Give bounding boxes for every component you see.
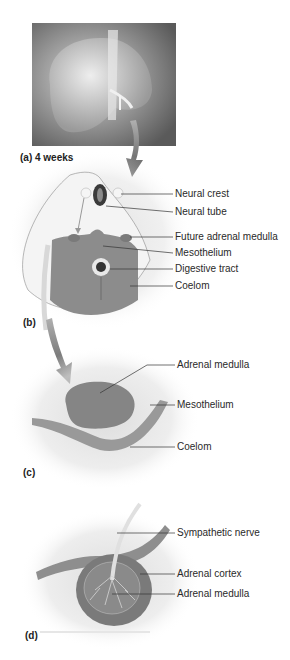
label-neural-crest: Neural crest bbox=[175, 188, 229, 200]
panel-b-label: (b) bbox=[23, 317, 36, 328]
panel-a-label: (a) 4 weeks bbox=[20, 152, 73, 163]
label-coelom-c: Coelom bbox=[177, 441, 211, 453]
cross-section-c bbox=[10, 346, 200, 490]
label-mesothelium-b: Mesothelium bbox=[175, 247, 232, 259]
panel-d-label: (d) bbox=[25, 630, 38, 641]
panel-c-label: (c) bbox=[23, 467, 35, 478]
embryo-image bbox=[32, 23, 176, 146]
label-adrenal-cortex: Adrenal cortex bbox=[177, 568, 241, 580]
label-digestive-tract: Digestive tract bbox=[175, 263, 238, 275]
label-sympathetic-nerve: Sympathetic nerve bbox=[177, 527, 260, 539]
label-adrenal-medulla-d: Adrenal medulla bbox=[177, 588, 249, 600]
label-mesothelium-c: Mesothelium bbox=[177, 399, 234, 411]
label-neural-tube: Neural tube bbox=[175, 206, 227, 218]
label-coelom-b: Coelom bbox=[175, 280, 209, 292]
cross-section-d bbox=[20, 504, 200, 650]
cross-section-b bbox=[8, 150, 192, 330]
diagram-graphics bbox=[0, 0, 290, 660]
label-future-adrenal-medulla: Future adrenal medulla bbox=[175, 231, 278, 243]
label-adrenal-medulla-c: Adrenal medulla bbox=[177, 359, 249, 371]
